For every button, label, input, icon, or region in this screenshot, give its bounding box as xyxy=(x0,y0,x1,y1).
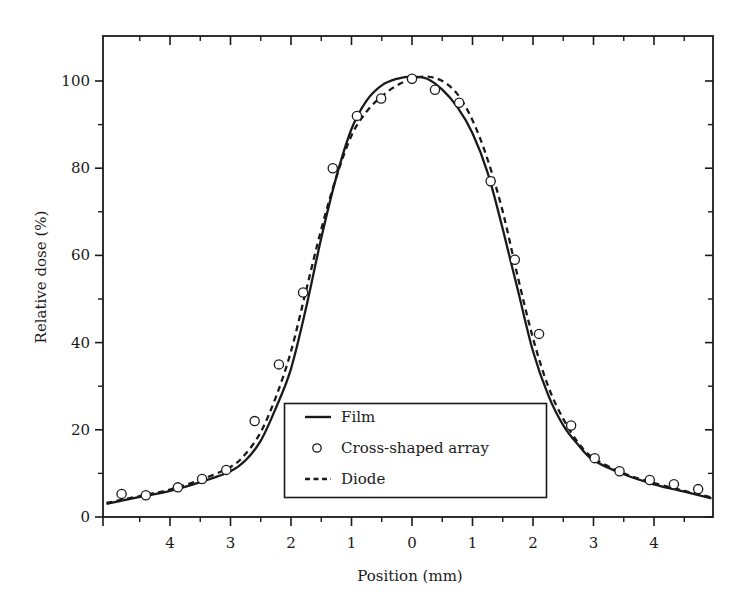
y-tick-label: 0 xyxy=(80,508,90,526)
x-tick-label: 1 xyxy=(468,534,478,552)
legend-label-diode: Diode xyxy=(341,470,385,488)
x-axis-label: Position (mm) xyxy=(357,567,462,585)
y-tick-label: 60 xyxy=(71,246,90,264)
x-tick-label: 2 xyxy=(286,534,296,552)
legend-label-film: Film xyxy=(341,408,375,426)
x-tick-label: 0 xyxy=(407,534,417,552)
data-point-marker xyxy=(197,474,206,483)
relative-dose-chart: 432101234 020406080100 Position (mm) Rel… xyxy=(0,0,743,603)
data-point-marker xyxy=(299,288,308,297)
legend: Film Cross-shaped array Diode xyxy=(285,404,547,498)
data-point-marker xyxy=(590,454,599,463)
data-point-marker xyxy=(173,483,182,492)
y-tick-label: 20 xyxy=(71,421,90,439)
data-point-marker xyxy=(615,467,624,476)
data-point-marker xyxy=(645,475,654,484)
open-circle-icon xyxy=(313,444,321,452)
x-tick-label: 4 xyxy=(649,534,659,552)
y-tick-label: 40 xyxy=(71,334,90,352)
data-point-marker xyxy=(407,74,416,83)
data-point-marker xyxy=(567,421,576,430)
data-point-marker xyxy=(455,98,464,107)
x-tick-label: 3 xyxy=(589,534,599,552)
data-point-marker xyxy=(141,491,150,500)
data-point-marker xyxy=(352,111,361,120)
y-tick-label: 80 xyxy=(71,159,90,177)
x-tick-label: 4 xyxy=(165,534,175,552)
data-point-marker xyxy=(694,484,703,493)
data-point-marker xyxy=(274,360,283,369)
data-point-marker xyxy=(250,416,259,425)
data-point-marker xyxy=(486,177,495,186)
data-point-marker xyxy=(510,255,519,264)
y-axis-label: Relative dose (%) xyxy=(32,211,50,344)
x-tick-label: 1 xyxy=(347,534,357,552)
data-point-marker xyxy=(377,94,386,103)
data-point-marker xyxy=(328,164,337,173)
y-tick-label: 100 xyxy=(61,72,90,90)
data-point-marker xyxy=(534,329,543,338)
data-point-marker xyxy=(117,489,126,498)
x-tick-label: 2 xyxy=(528,534,538,552)
data-point-marker xyxy=(430,85,439,94)
data-point-marker xyxy=(222,465,231,474)
x-tick-label: 3 xyxy=(226,534,236,552)
legend-label-cross-shaped-array: Cross-shaped array xyxy=(341,439,490,457)
data-point-marker xyxy=(669,480,678,489)
